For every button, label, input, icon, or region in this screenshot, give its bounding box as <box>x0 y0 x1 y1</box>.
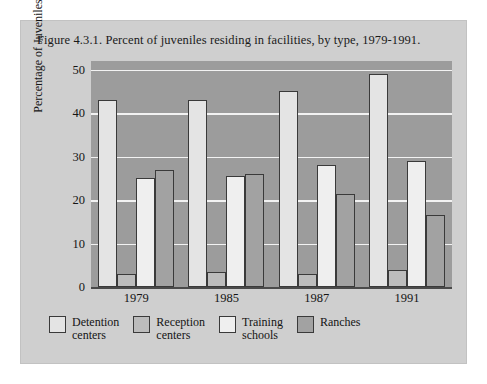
y-tick-label-20: 20 <box>73 193 86 208</box>
legend-label: Ranches <box>320 316 361 329</box>
bar-1991-reception-centers <box>388 270 407 287</box>
y-tick-label-40: 40 <box>73 106 86 121</box>
bar-1985-reception-centers <box>207 272 226 287</box>
legend-swatch-icon <box>133 316 150 333</box>
y-axis-title: Percentage of Juveniles <box>31 0 46 121</box>
bar-1987-training-schools <box>317 165 336 287</box>
chart-plot: Percentage of Juveniles 01020304050 1979… <box>37 61 452 311</box>
x-tick-label-1979: 1979 <box>124 291 149 306</box>
bar-1979-training-schools <box>136 178 155 287</box>
chart-legend: Detention centersReception centersTraini… <box>49 316 444 350</box>
bar-1991-ranches <box>426 215 445 287</box>
y-axis-tick-labels: 01020304050 <box>51 61 85 287</box>
y-tick-label-50: 50 <box>73 62 86 77</box>
bar-1979-detention-centers <box>98 100 117 287</box>
bar-1985-ranches <box>245 174 264 287</box>
bar-group-1979 <box>91 61 181 287</box>
bar-groups <box>91 61 452 287</box>
bar-1991-training-schools <box>407 161 426 287</box>
legend-label: Detention centers <box>72 316 119 341</box>
x-tick-label-1987: 1987 <box>304 291 329 306</box>
y-tick-label-0: 0 <box>79 280 85 295</box>
bar-1991-detention-centers <box>369 74 388 287</box>
bar-1987-reception-centers <box>298 274 317 287</box>
figure-title: Figure 4.3.1. Percent of juveniles resid… <box>37 33 420 48</box>
bar-1987-ranches <box>336 194 355 287</box>
figure-card: Figure 4.3.1. Percent of juveniles resid… <box>20 20 467 364</box>
legend-label: Training schools <box>242 316 283 341</box>
legend-label: Reception centers <box>156 316 205 341</box>
legend-swatch-icon <box>219 316 236 333</box>
x-axis-line <box>91 287 452 289</box>
x-tick-label-1991: 1991 <box>394 291 419 306</box>
legend-item-reception-centers[interactable]: Reception centers <box>133 316 205 341</box>
bar-group-1987 <box>272 61 362 287</box>
legend-item-training-schools[interactable]: Training schools <box>219 316 283 341</box>
plot-area <box>91 61 452 287</box>
legend-item-ranches[interactable]: Ranches <box>297 316 361 333</box>
y-tick-label-30: 30 <box>73 149 86 164</box>
legend-swatch-icon <box>297 316 314 333</box>
legend-item-detention-centers[interactable]: Detention centers <box>49 316 119 341</box>
bar-1985-training-schools <box>226 176 245 287</box>
bar-1979-ranches <box>155 170 174 287</box>
bar-1985-detention-centers <box>188 100 207 287</box>
y-tick-label-10: 10 <box>73 236 86 251</box>
bar-1979-reception-centers <box>117 274 136 287</box>
bar-1987-detention-centers <box>279 91 298 287</box>
x-axis-tick-labels: 1979198519871991 <box>91 291 452 311</box>
x-tick-label-1985: 1985 <box>214 291 239 306</box>
bar-group-1985 <box>181 61 271 287</box>
legend-swatch-icon <box>49 316 66 333</box>
bar-group-1991 <box>362 61 452 287</box>
